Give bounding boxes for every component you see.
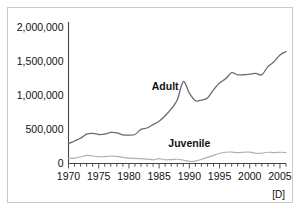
x-axis-tick-labels: 19701975198019851990199520002005 (57, 170, 292, 182)
x-tick-label: 1970 (57, 170, 81, 182)
series-label-adult: Adult (152, 80, 179, 92)
series-line-adult (69, 52, 287, 144)
x-tick-label: 2000 (238, 170, 262, 182)
chart-figure: 0500,0001,000,0001,500,0002,000,000 1970… (0, 0, 300, 217)
x-tick-label: 1990 (178, 170, 202, 182)
y-tick-label: 1,500,000 (17, 55, 64, 67)
y-tick-label: 0 (58, 157, 64, 169)
series-label-juvenile: Juvenile (168, 137, 210, 149)
x-tick-label: 1975 (87, 170, 111, 182)
y-axis-tick-labels: 0500,0001,000,0001,500,0002,000,000 (17, 21, 64, 170)
series-line-juvenile (69, 152, 287, 162)
axis-tick-marks (69, 164, 287, 169)
y-tick-label: 500,000 (26, 123, 64, 135)
x-tick-label: 1995 (208, 170, 232, 182)
x-tick-label: 1980 (117, 170, 141, 182)
x-tick-label: 1985 (147, 170, 171, 182)
source-note: [D] (272, 189, 285, 200)
y-tick-label: 1,000,000 (17, 89, 64, 101)
y-tick-label: 2,000,000 (17, 21, 64, 33)
line-chart: 0500,0001,000,0001,500,0002,000,000 1970… (0, 0, 300, 217)
x-tick-label: 2005 (268, 170, 292, 182)
